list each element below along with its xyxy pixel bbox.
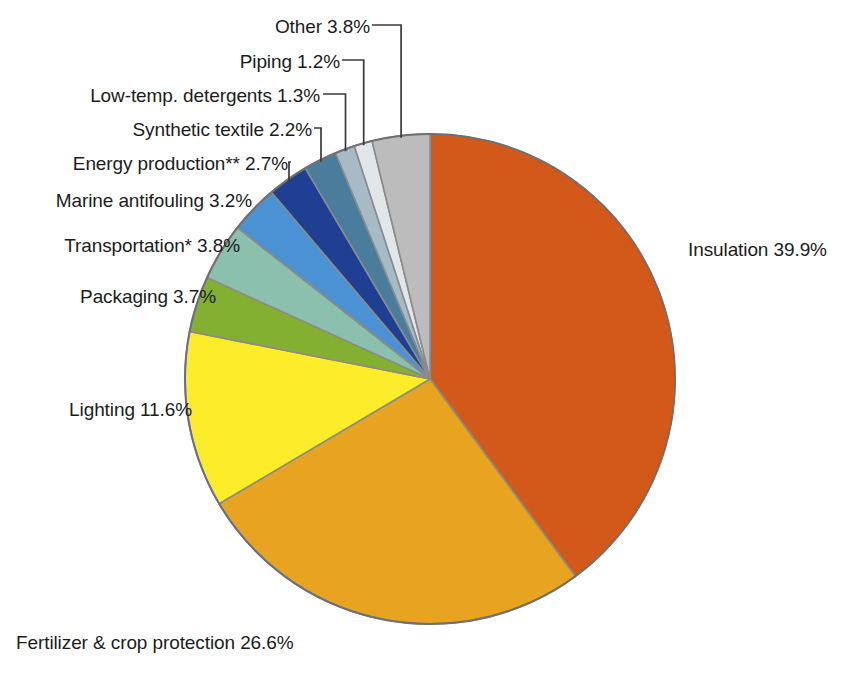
label-energy-production: Energy production** 2.7% [16, 153, 288, 175]
label-fertilizer-crop-protection: Fertilizer & crop protection 26.6% [16, 632, 436, 654]
label-marine-antifouling: Marine antifouling 3.2% [20, 190, 252, 212]
pie-slices-group [185, 134, 675, 624]
label-transportation: Transportation* 3.8% [22, 235, 240, 257]
label-synthetic-textile: Synthetic textile 2.2% [72, 119, 312, 141]
label-lighting: Lighting 11.6% [36, 399, 192, 421]
label-piping: Piping 1.2% [168, 51, 340, 73]
label-insulation: Insulation 39.9% [688, 239, 849, 261]
leader-line-textile [314, 128, 321, 162]
chart-canvas: Other 3.8% Piping 1.2% Low-temp. deterge… [0, 0, 849, 677]
label-low-temp-detergents: Low-temp. detergents 1.3% [38, 85, 320, 107]
label-packaging: Packaging 3.7% [36, 286, 216, 308]
label-other: Other 3.8% [218, 16, 370, 38]
leader-line-other [372, 25, 401, 138]
leader-line-detergents [323, 94, 346, 151]
